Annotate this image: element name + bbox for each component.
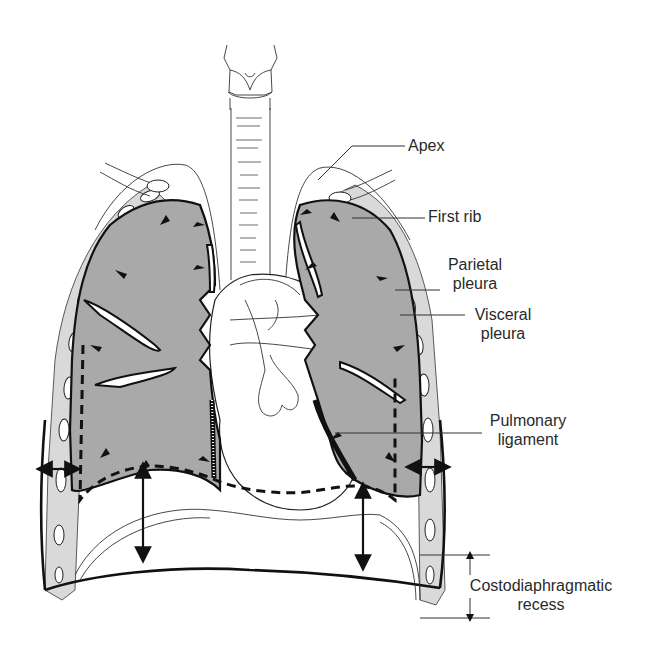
label-visceral-pleura: Visceral pleura <box>467 305 539 343</box>
larynx <box>224 45 277 110</box>
label-parietal-pleura: Parietal pleura <box>440 255 510 293</box>
label-parietal-pleura-line2: pleura <box>440 274 510 293</box>
label-apex: Apex <box>408 136 444 155</box>
pleura-diagram: Apex First rib Parietal pleura Visceral … <box>0 0 653 652</box>
diaphragm-outer <box>45 569 440 590</box>
label-pulmonary-ligament: Pulmonary ligament <box>480 411 576 449</box>
label-visceral-pleura-line1: Visceral <box>467 305 539 324</box>
label-costodiaphragmatic-recess-line1: Costodiaphragmatic <box>455 576 627 595</box>
label-pulmonary-ligament-line1: Pulmonary <box>480 411 576 430</box>
label-parietal-pleura-line1: Parietal <box>440 255 510 274</box>
label-first-rib: First rib <box>428 207 481 226</box>
label-costodiaphragmatic-recess: Costodiaphragmatic recess <box>455 576 627 614</box>
chest-outline-left <box>41 420 45 590</box>
label-costodiaphragmatic-recess-line2: recess <box>455 595 627 614</box>
trachea <box>231 108 270 280</box>
label-pulmonary-ligament-line2: ligament <box>480 430 576 449</box>
diaphragm-inner <box>75 509 420 600</box>
diagram-canvas <box>0 0 653 652</box>
label-visceral-pleura-line2: pleura <box>467 324 539 343</box>
